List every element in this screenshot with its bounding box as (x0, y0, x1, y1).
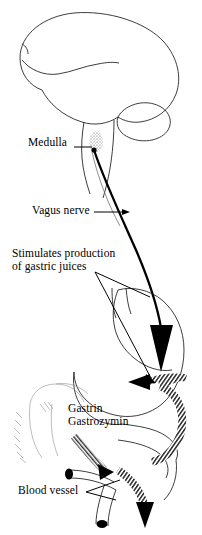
label-blood-vessel: Blood vessel (18, 484, 78, 497)
label-gastrin-group: Gastrin Gastrozymin (68, 402, 129, 428)
liver-outline-2 (56, 383, 88, 394)
lateral-sulcus (22, 60, 119, 74)
label-stimulates-line1: Stimulates production (12, 247, 115, 260)
label-stimulates-line2: of gastric juices (12, 260, 115, 273)
brain-group (20, 13, 179, 198)
pancreas-marks (40, 402, 53, 412)
label-gastrin: Gastrin (68, 402, 129, 415)
vessel-lumen-dark-2 (97, 520, 108, 528)
anatomical-diagram: Medulla Vagus nerve Stimulates productio… (0, 0, 202, 535)
brainstem-left (82, 122, 90, 194)
liver-outline-1 (30, 384, 84, 404)
vagus-branch-faint (92, 152, 120, 226)
duodenum-descending (164, 460, 177, 500)
label-stimulates-production: Stimulates production of gastric juices (12, 247, 115, 273)
vessel-branch-outline-left (96, 486, 104, 524)
circulation-arrow-shaft (152, 386, 182, 462)
label-vagus-nerve: Vagus nerve (32, 204, 90, 217)
gastrin-outflow-arrow (118, 470, 154, 528)
liver-outline-4 (51, 404, 58, 456)
cerebrum-outline (20, 13, 179, 124)
vessel-lumen-dark (65, 469, 73, 480)
liver-outline-3 (30, 404, 43, 458)
bloodvessel-leader-2 (86, 492, 116, 500)
esophagus-right (126, 288, 131, 314)
outflow-arrow-shaft (118, 470, 144, 504)
vessel-branch-outline-right (108, 490, 116, 526)
label-gastrozymin: Gastrozymin (68, 415, 129, 428)
vagus-nerve-arrowhead (150, 325, 173, 372)
gastrin-circulation-arrow (152, 377, 186, 462)
label-medulla: Medulla (28, 136, 67, 149)
stimulates-leader-2 (95, 272, 152, 380)
vagus-leader-arrowhead (122, 209, 130, 215)
frontal-notch (22, 44, 28, 54)
liver-hatch-marks (14, 412, 26, 463)
outflow-arrowhead (136, 502, 154, 528)
stimulates-leader-1 (95, 272, 150, 297)
